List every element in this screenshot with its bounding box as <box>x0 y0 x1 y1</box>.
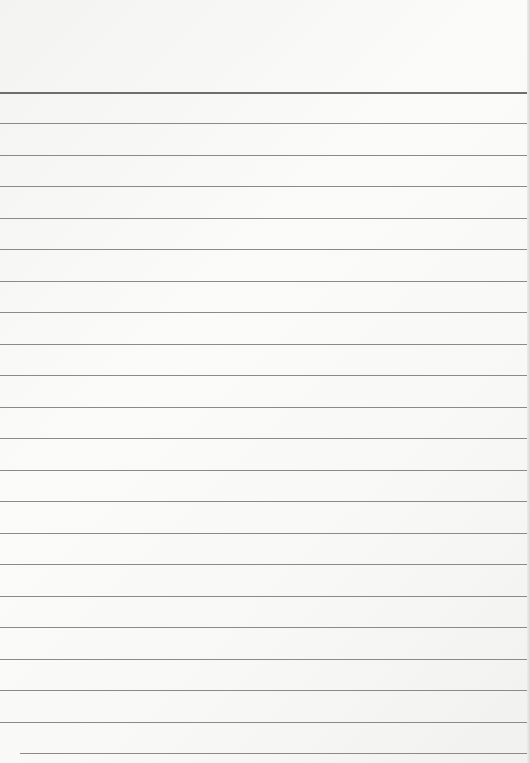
ruled-line <box>0 375 530 376</box>
ruled-line <box>0 627 530 628</box>
ruled-line <box>0 722 530 723</box>
ruled-line <box>0 155 530 156</box>
ruled-line <box>0 690 530 691</box>
ruled-line <box>0 186 530 187</box>
ruled-line <box>0 438 530 439</box>
ruled-line <box>0 470 530 471</box>
ruled-line <box>0 501 530 502</box>
ruled-line <box>0 249 530 250</box>
ruled-line <box>0 281 530 282</box>
ruled-line <box>0 596 530 597</box>
ruled-line <box>0 533 530 534</box>
ruled-line <box>0 92 530 94</box>
ruled-line <box>0 123 530 124</box>
ruled-line <box>0 564 530 565</box>
ruled-line <box>0 218 530 219</box>
ruled-line <box>0 344 530 345</box>
lined-paper-sheet <box>0 0 530 763</box>
ruled-line <box>20 753 530 754</box>
ruled-line <box>0 407 530 408</box>
ruled-line <box>0 312 530 313</box>
ruled-line <box>0 659 530 660</box>
